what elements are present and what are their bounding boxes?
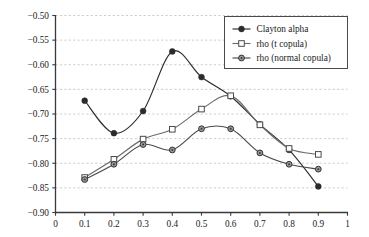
y-tick-label: −0.80: [27, 159, 49, 169]
series-line: [85, 51, 319, 187]
marker-ring-center: [288, 163, 290, 165]
x-tick-label: 0.7: [254, 219, 266, 229]
y-tick-label: −0.70: [27, 109, 49, 119]
marker-open-square: [199, 106, 205, 112]
marker-ring-center: [259, 152, 261, 154]
marker-ring-center: [113, 163, 115, 165]
marker-filled-circle: [239, 26, 245, 32]
marker-open-square: [239, 41, 245, 47]
marker-open-square: [316, 152, 322, 158]
x-tick-label: 0.3: [137, 219, 149, 229]
y-tick-label: −0.90: [27, 208, 49, 218]
x-tick-label: 1: [345, 219, 350, 229]
x-axis-tick-labels: 00.10.20.30.40.50.60.70.80.91: [53, 219, 350, 229]
y-tick-label: −0.60: [27, 60, 49, 70]
marker-filled-circle: [111, 130, 117, 136]
legend-label: rho (normal copula): [257, 53, 331, 64]
marker-open-square: [257, 122, 263, 128]
x-tick-label: 0.1: [79, 219, 91, 229]
y-tick-label: −0.50: [27, 11, 49, 21]
marker-ring-center: [230, 128, 232, 130]
marker-open-square: [228, 93, 234, 99]
marker-ring-center: [241, 57, 243, 59]
y-axis-tick-labels: −0.50−0.55−0.60−0.65−0.70−0.75−0.80−0.85…: [27, 11, 49, 218]
line-chart: −0.50−0.55−0.60−0.65−0.70−0.75−0.80−0.85…: [0, 0, 369, 237]
marker-open-square: [140, 136, 146, 142]
y-tick-label: −0.75: [27, 134, 49, 144]
marker-filled-circle: [82, 98, 88, 104]
y-tick-label: −0.65: [27, 85, 49, 95]
marker-filled-circle: [140, 108, 146, 114]
x-tick-label: 0.9: [312, 219, 324, 229]
chart-figure: −0.50−0.55−0.60−0.65−0.70−0.75−0.80−0.85…: [0, 0, 369, 237]
marker-filled-circle: [315, 183, 321, 189]
series-1: [82, 93, 321, 180]
x-tick-label: 0.4: [166, 219, 178, 229]
marker-open-square: [170, 126, 176, 132]
marker-filled-circle: [169, 49, 175, 55]
legend-label: rho (t copula): [257, 39, 308, 50]
marker-open-square: [286, 146, 292, 152]
series-0: [82, 49, 321, 190]
x-tick-label: 0.2: [108, 219, 120, 229]
x-tick-label: 0.6: [225, 219, 237, 229]
x-tick-label: 0.5: [196, 219, 208, 229]
y-tick-label: −0.55: [27, 35, 49, 45]
legend-label: Clayton alpha: [257, 24, 309, 34]
marker-ring-center: [171, 149, 173, 151]
marker-filled-circle: [199, 74, 205, 80]
x-tick-label: 0: [53, 219, 58, 229]
series-line: [85, 126, 319, 180]
marker-ring-center: [201, 128, 203, 130]
chart-legend: Clayton alpharho (t copula)rho (normal c…: [225, 17, 348, 69]
marker-ring-center: [84, 179, 86, 181]
series-2: [82, 126, 321, 183]
y-tick-label: −0.85: [27, 183, 49, 193]
marker-ring-center: [142, 144, 144, 146]
x-tick-label: 0.8: [283, 219, 295, 229]
data-series-layer: [82, 49, 321, 190]
marker-ring-center: [317, 168, 319, 170]
